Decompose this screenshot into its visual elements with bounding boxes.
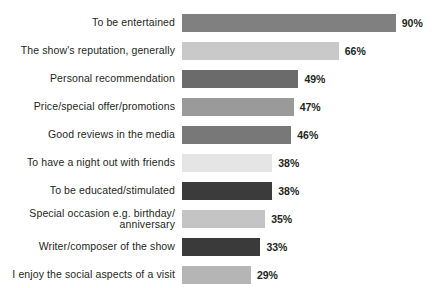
category-label: Personal recommendation — [0, 73, 175, 85]
category-label: I enjoy the social aspects of a visit — [0, 269, 175, 281]
bar-value-label: 33% — [266, 241, 287, 253]
bar-row: Good reviews in the media46% — [0, 121, 438, 149]
category-label: Special occasion e.g. birthday/ annivers… — [0, 208, 175, 231]
bar-container: 66% — [182, 42, 438, 60]
category-label: Price/special offer/promotions — [0, 101, 175, 113]
category-label: To be entertained — [0, 17, 175, 29]
category-label: Writer/composer of the show — [0, 241, 175, 253]
bar-value-label: 38% — [278, 185, 299, 197]
bar-row: Special occasion e.g. birthday/ annivers… — [0, 205, 438, 233]
bar-row: The show's reputation, generally66% — [0, 37, 438, 65]
bar — [182, 126, 291, 144]
bar-value-label: 29% — [257, 269, 278, 281]
bar-container: 46% — [182, 126, 438, 144]
bar-row: Personal recommendation49% — [0, 65, 438, 93]
bar-container: 35% — [182, 210, 438, 228]
chart-plot-area: To be entertained90%The show's reputatio… — [0, 9, 438, 288]
bar-value-label: 90% — [402, 17, 423, 29]
bar-container: 38% — [182, 154, 438, 172]
bar — [182, 42, 339, 60]
bar-container: 29% — [182, 266, 438, 284]
category-label: The show's reputation, generally — [0, 45, 175, 57]
bar — [182, 98, 294, 116]
bar-container: 38% — [182, 182, 438, 200]
bar-row: To be entertained90% — [0, 9, 438, 37]
bar-value-label: 38% — [278, 157, 299, 169]
bar-container: 49% — [182, 70, 438, 88]
category-label: To have a night out with friends — [0, 157, 175, 169]
bar-value-label: 49% — [304, 73, 325, 85]
bar-container: 90% — [182, 14, 438, 32]
bar-row: To have a night out with friends38% — [0, 149, 438, 177]
bar-row: Price/special offer/promotions47% — [0, 93, 438, 121]
bar-container: 33% — [182, 238, 438, 256]
bar-row: I enjoy the social aspects of a visit29% — [0, 261, 438, 288]
category-label: To be educated/stimulated — [0, 185, 175, 197]
category-label: Good reviews in the media — [0, 129, 175, 141]
bar — [182, 238, 260, 256]
bar-row: To be educated/stimulated38% — [0, 177, 438, 205]
bar — [182, 154, 272, 172]
bar — [182, 14, 396, 32]
bar-row: Writer/composer of the show33% — [0, 233, 438, 261]
bar-value-label: 66% — [345, 45, 366, 57]
bar-value-label: 35% — [271, 213, 292, 225]
bar-value-label: 47% — [300, 101, 321, 113]
bar — [182, 182, 272, 200]
bar — [182, 266, 251, 284]
bar — [182, 210, 265, 228]
bar-container: 47% — [182, 98, 438, 116]
bar-value-label: 46% — [297, 129, 318, 141]
bar — [182, 70, 298, 88]
